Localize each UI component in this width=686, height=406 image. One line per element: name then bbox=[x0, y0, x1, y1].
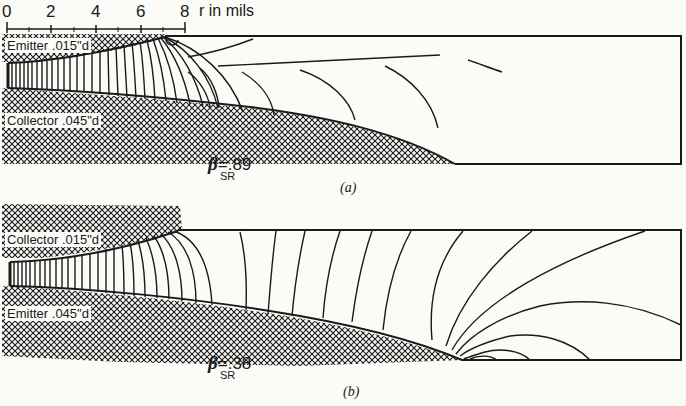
panel-a-emitter-label: Emitter .015"d bbox=[5, 38, 91, 53]
panel-b-diagram bbox=[2, 204, 681, 366]
scale-tick-0: 0 bbox=[2, 2, 11, 22]
beta-subscript: SR bbox=[220, 170, 235, 182]
panel-b-caption: (b) bbox=[343, 384, 359, 400]
scale-bar bbox=[7, 22, 185, 33]
diagram-graphics bbox=[0, 0, 686, 406]
scale-tick-2: 2 bbox=[46, 2, 55, 22]
panel-a-diagram bbox=[2, 34, 681, 164]
scale-tick-8: 8 bbox=[180, 2, 189, 22]
panel-a-beta-label: β=.89 SR bbox=[208, 153, 251, 175]
panel-b-beta-label: β=.38 SR bbox=[208, 352, 251, 374]
panel-a-collector-label: Collector .045"d bbox=[5, 113, 101, 128]
scale-tick-6: 6 bbox=[136, 2, 145, 22]
figure: 0 2 4 6 8 r in mils Emitter .015"d Colle… bbox=[0, 0, 686, 406]
beta-symbol: β bbox=[208, 352, 218, 373]
panel-b-collector-label: Collector .015"d bbox=[5, 232, 101, 247]
beta-subscript: SR bbox=[220, 369, 235, 381]
panel-b-emitter-label: Emitter .045"d bbox=[5, 306, 91, 321]
scale-unit-label: r in mils bbox=[199, 2, 254, 20]
scale-tick-4: 4 bbox=[91, 2, 100, 22]
panel-a-caption: (a) bbox=[340, 180, 356, 196]
beta-symbol: β bbox=[208, 153, 218, 174]
